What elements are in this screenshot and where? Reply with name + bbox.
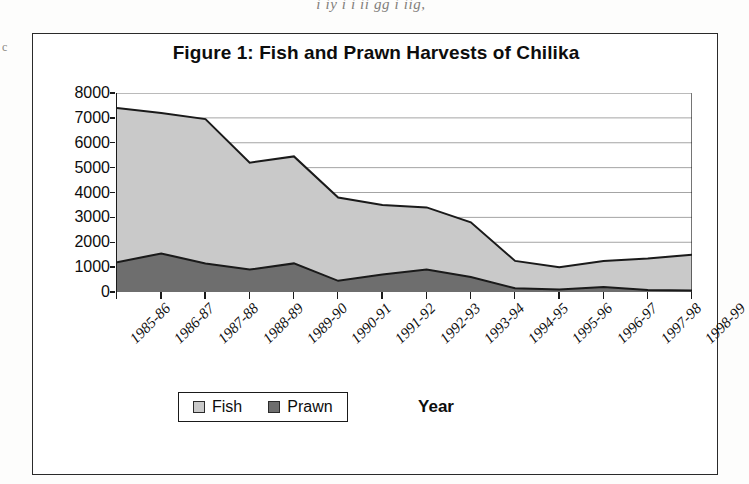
x-tick-mark bbox=[381, 292, 382, 299]
legend-swatch-fish bbox=[193, 401, 205, 413]
y-tick-mark bbox=[110, 167, 115, 168]
page-left-margin-mark: c bbox=[2, 40, 12, 54]
area-chart-svg bbox=[117, 93, 692, 292]
x-tick-mark bbox=[160, 292, 161, 299]
legend-item-fish[interactable]: Fish bbox=[193, 398, 242, 416]
y-tick-mark bbox=[110, 142, 115, 143]
y-tick-label: 4000 bbox=[54, 184, 110, 202]
y-tick-label: 8000 bbox=[54, 84, 110, 102]
legend-label: Fish bbox=[212, 398, 242, 416]
plot-wrapper: 800070006000500040003000200010000 M.T bbox=[116, 93, 691, 292]
y-tick-mark bbox=[110, 92, 115, 93]
x-tick-mark bbox=[293, 292, 294, 299]
legend-item-prawn[interactable]: Prawn bbox=[268, 398, 332, 416]
x-tick-mark bbox=[204, 292, 205, 299]
y-tick-label: 5000 bbox=[54, 159, 110, 177]
x-axis-tick-marks bbox=[116, 292, 691, 300]
y-tick-label: 3000 bbox=[54, 208, 110, 226]
x-tick-mark bbox=[514, 292, 515, 299]
x-tick-label: 1989-90 bbox=[304, 300, 351, 347]
x-tick-label: 1991-92 bbox=[392, 300, 439, 347]
y-tick-label: 6000 bbox=[54, 134, 110, 152]
y-tick-mark bbox=[110, 266, 115, 267]
y-axis-tick-labels: 800070006000500040003000200010000 bbox=[50, 93, 110, 292]
x-tick-label: 1987-88 bbox=[215, 300, 262, 347]
x-tick-mark bbox=[470, 292, 471, 299]
x-tick-mark bbox=[691, 292, 692, 299]
y-tick-label: 1000 bbox=[54, 258, 110, 276]
y-tick-label: 2000 bbox=[54, 233, 110, 251]
legend-label: Prawn bbox=[287, 398, 332, 416]
y-tick-mark bbox=[110, 242, 115, 243]
y-tick-label: 7000 bbox=[54, 109, 110, 127]
x-axis-tick-labels: 1985-861986-871987-881988-891989-901990-… bbox=[116, 300, 691, 390]
x-tick-label: 1985-86 bbox=[127, 300, 174, 347]
figure-frame: Figure 1: Fish and Prawn Harvests of Chi… bbox=[32, 33, 718, 475]
x-tick-label: 1993-94 bbox=[480, 300, 527, 347]
y-tick-mark bbox=[110, 117, 115, 118]
x-axis-title: Year bbox=[33, 397, 719, 417]
x-tick-label: 1994-95 bbox=[525, 300, 572, 347]
x-tick-mark bbox=[337, 292, 338, 299]
x-tick-label: 1986-87 bbox=[171, 300, 218, 347]
y-tick-label: 0 bbox=[54, 283, 110, 301]
chart-legend: FishPrawn bbox=[178, 392, 348, 422]
x-tick-label: 1995-96 bbox=[569, 300, 616, 347]
x-tick-label: 1992-93 bbox=[436, 300, 483, 347]
plot-area bbox=[116, 93, 691, 292]
chart-title: Figure 1: Fish and Prawn Harvests of Chi… bbox=[33, 42, 719, 64]
x-tick-label: 1990-91 bbox=[348, 300, 395, 347]
x-tick-mark bbox=[249, 292, 250, 299]
legend-swatch-prawn bbox=[268, 401, 280, 413]
x-tick-mark bbox=[116, 292, 117, 299]
x-tick-mark bbox=[558, 292, 559, 299]
page-bleed-text: i iy i i ii gg i iig, bbox=[0, 0, 742, 18]
x-tick-mark bbox=[603, 292, 604, 299]
y-tick-mark bbox=[110, 217, 115, 218]
x-tick-label: 1998-99 bbox=[702, 300, 749, 347]
x-tick-label: 1997-98 bbox=[657, 300, 704, 347]
x-tick-mark bbox=[647, 292, 648, 299]
x-tick-mark bbox=[426, 292, 427, 299]
y-tick-mark bbox=[110, 291, 115, 292]
x-tick-label: 1996-97 bbox=[613, 300, 660, 347]
x-tick-label: 1988-89 bbox=[259, 300, 306, 347]
